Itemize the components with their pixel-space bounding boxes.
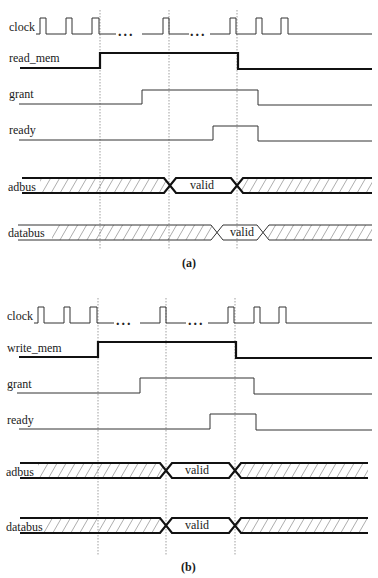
databus-bus: valid: [20, 518, 368, 533]
signal-label-clock: clock: [7, 309, 33, 323]
adbus-bus: valid: [20, 463, 368, 478]
ellipsis: ...: [188, 313, 205, 328]
signal-label-databus: databus: [8, 226, 45, 240]
signal-label-grant: grant: [7, 377, 32, 391]
grant-waveform: [17, 378, 372, 394]
grant-waveform: [19, 90, 372, 105]
ellipsis: ...: [190, 24, 207, 39]
databus-bus: valid: [18, 225, 372, 240]
signal-label-write-mem: write_mem: [7, 341, 62, 355]
caption-a: (a): [182, 256, 196, 270]
signal-label-clock: clock: [9, 20, 35, 34]
signal-label-ready: ready: [9, 123, 36, 137]
ready-waveform: [19, 126, 372, 141]
diagram-a: clock ... ... read_mem grant ready adbus…: [8, 10, 372, 270]
diagram-b: clock ... ... write_mem grant ready adbu…: [6, 298, 372, 574]
timing-diagrams: clock ... ... read_mem grant ready adbus…: [0, 0, 378, 578]
write-mem-waveform: [19, 342, 372, 358]
databus-valid-label: valid: [185, 518, 209, 532]
databus-valid-label: valid: [230, 225, 254, 239]
adbus-valid-label: valid: [190, 178, 214, 192]
adbus-bus: valid: [22, 178, 372, 193]
signal-label-ready: ready: [7, 413, 34, 427]
caption-b: (b): [181, 560, 196, 574]
ready-waveform: [19, 414, 372, 430]
signal-label-grant: grant: [9, 87, 34, 101]
ellipsis: ...: [116, 313, 133, 328]
ellipsis: ...: [118, 24, 135, 39]
adbus-valid-label: valid: [185, 463, 209, 477]
read-mem-waveform: [20, 53, 372, 69]
signal-label-read-mem: read_mem: [9, 51, 60, 65]
